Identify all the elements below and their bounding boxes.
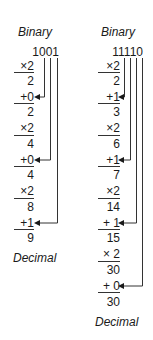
bit-connector-arrows	[0, 0, 153, 340]
